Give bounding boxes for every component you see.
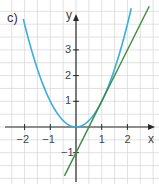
y-tick-label: 3: [65, 44, 71, 55]
parabola-curve: [23, 8, 131, 127]
tangent-line: [64, 6, 149, 176]
function-plot: [0, 0, 159, 184]
x-tick-label: −2: [17, 134, 30, 145]
y-tick-label: 2: [65, 70, 71, 81]
y-axis-label: y: [66, 9, 72, 21]
grid-lines: [0, 0, 159, 184]
panel-label: c): [7, 10, 18, 25]
x-tick-label: 1: [99, 134, 105, 145]
y-tick-label: 1: [65, 95, 71, 106]
x-axis-label: x: [148, 133, 154, 145]
x-tick-label: 2: [124, 134, 130, 145]
plot-series: [23, 6, 149, 176]
y-tick-label: −1: [61, 147, 74, 158]
x-tick-label: −1: [42, 134, 55, 145]
